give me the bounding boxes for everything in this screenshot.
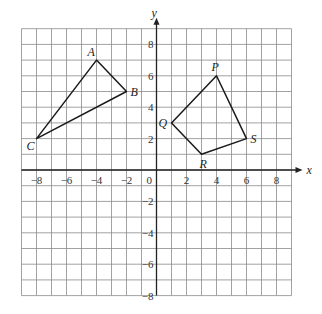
y-tick-label: 6 <box>148 70 154 82</box>
y-tick-label: 8 <box>148 38 154 50</box>
origin-label: 0 <box>147 174 153 186</box>
coordinate-grid: −8−6−4−224688642−2−4−6−8 ABCPSRQ x y 0 <box>0 0 322 314</box>
vertex-label-q: Q <box>159 116 168 130</box>
vertex-label-s: S <box>251 132 257 146</box>
vertex-label-p: P <box>211 60 220 74</box>
x-axis-arrow-icon <box>296 167 303 173</box>
y-tick-label: −4 <box>142 227 154 239</box>
x-tick-label: 2 <box>184 174 190 186</box>
x-tick-label: −2 <box>121 174 133 186</box>
quadrilateral-pqrs-outline <box>172 76 247 155</box>
x-tick-label: 4 <box>214 174 220 186</box>
x-tick-label: −8 <box>31 174 43 186</box>
y-tick-label: −6 <box>142 258 154 270</box>
vertex-label-r: R <box>199 157 208 171</box>
triangle-abc: ABC <box>27 45 139 153</box>
x-tick-label: −4 <box>91 174 103 186</box>
y-tick-label: −2 <box>142 195 154 207</box>
x-tick-label: 6 <box>244 174 250 186</box>
x-tick-label: 8 <box>274 174 280 186</box>
y-axis-label: y <box>151 6 158 20</box>
axes <box>22 18 303 296</box>
y-tick-label: 2 <box>148 133 154 145</box>
x-axis-label: x <box>306 163 313 177</box>
y-tick-label: −8 <box>142 290 154 302</box>
vertex-label-b: B <box>131 85 139 99</box>
x-tick-label: −6 <box>61 174 73 186</box>
vertex-label-a: A <box>87 45 96 59</box>
y-tick-label: 4 <box>148 101 154 113</box>
vertex-label-c: C <box>27 139 36 153</box>
